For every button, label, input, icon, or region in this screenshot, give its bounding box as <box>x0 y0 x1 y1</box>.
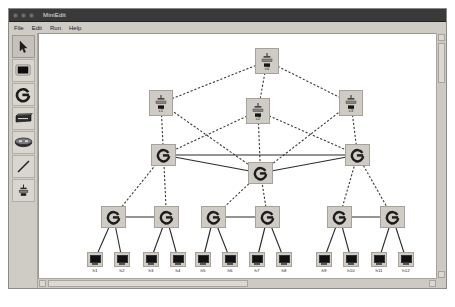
host-stand-icon <box>376 263 382 265</box>
menu-edit[interactable]: Edit <box>32 25 42 31</box>
host-tool[interactable] <box>12 59 35 82</box>
scroll-up-button[interactable] <box>438 34 445 41</box>
node-h12[interactable]: h12 <box>398 252 414 273</box>
node-label: c2 <box>256 116 261 121</box>
link-s1-s4[interactable] <box>164 155 261 173</box>
node-s1[interactable]: s1 <box>151 144 176 166</box>
vertical-scroll-thumb[interactable] <box>438 43 445 83</box>
node-h6[interactable]: h6 <box>222 252 238 273</box>
host-screen-icon <box>374 255 385 263</box>
link-tool[interactable] <box>12 155 35 178</box>
legacy-switch-tool[interactable] <box>12 131 35 154</box>
host-screen-icon <box>198 255 209 263</box>
node-s2[interactable]: s2 <box>101 206 126 228</box>
scroll-right-button[interactable] <box>429 280 436 287</box>
node-c0[interactable]: c0 <box>255 48 279 74</box>
node-h3[interactable]: h3 <box>143 252 159 273</box>
host-screen-icon <box>146 255 157 263</box>
scrollbar-corner <box>437 279 446 288</box>
node-label: h5 <box>201 268 206 273</box>
horizontal-scroll-thumb[interactable] <box>48 280 248 287</box>
node-h11[interactable]: h11 <box>371 252 387 273</box>
host-body <box>276 252 292 267</box>
node-s8[interactable]: s8 <box>327 206 352 228</box>
node-body: s9 <box>380 206 405 228</box>
node-h7[interactable]: h7 <box>249 252 265 273</box>
link-s4-s7[interactable] <box>261 155 358 173</box>
node-label: s3 <box>164 221 169 226</box>
switch-tool[interactable] <box>12 83 35 106</box>
host-screen-icon <box>90 255 101 263</box>
node-s7[interactable]: s7 <box>345 144 370 166</box>
node-label: h12 <box>402 268 409 273</box>
controller-tool[interactable] <box>12 179 35 202</box>
host-body <box>195 252 211 267</box>
host-body <box>143 252 159 267</box>
host-screen-icon <box>252 255 263 263</box>
node-label: s2 <box>111 221 116 226</box>
zoom-dot-icon[interactable] <box>29 13 34 18</box>
node-c2[interactable]: c2 <box>246 98 270 124</box>
topology-canvas[interactable]: c0c1c2c3s1s4s7s2s3s5s6s8s9h1h2h3h4h5h6h7… <box>38 33 437 279</box>
menu-file[interactable]: File <box>14 25 24 31</box>
node-body: s1 <box>151 144 176 166</box>
link-c2-s7[interactable] <box>258 111 358 155</box>
host-icon <box>15 64 31 77</box>
close-dot-icon[interactable] <box>13 13 18 18</box>
vertical-scrollbar[interactable] <box>436 33 446 279</box>
host-stand-icon <box>403 263 409 265</box>
host-screen-icon <box>401 255 412 263</box>
node-s9[interactable]: s9 <box>380 206 405 228</box>
window-controls <box>13 13 34 18</box>
host-screen-icon <box>279 255 290 263</box>
minimize-dot-icon[interactable] <box>21 13 26 18</box>
node-body: s5 <box>201 206 226 228</box>
window-body: c0c1c2c3s1s4s7s2s3s5s6s8s9h1h2h3h4h5h6h7… <box>9 33 446 288</box>
node-h9[interactable]: h9 <box>316 252 332 273</box>
node-s4[interactable]: s4 <box>248 162 273 184</box>
node-h10[interactable]: h10 <box>343 252 359 273</box>
host-stand-icon <box>148 263 154 265</box>
link-c2-s1[interactable] <box>164 111 259 155</box>
node-s3[interactable]: s3 <box>154 206 179 228</box>
node-c1[interactable]: c1 <box>149 90 173 116</box>
host-stand-icon <box>254 263 260 265</box>
legacy-router-tool[interactable] <box>12 107 35 130</box>
node-h4[interactable]: h4 <box>170 252 186 273</box>
horizontal-scrollbar[interactable] <box>38 278 437 288</box>
host-screen-icon <box>117 255 128 263</box>
host-stand-icon <box>175 263 181 265</box>
node-h8[interactable]: h8 <box>276 252 292 273</box>
link-c3-s4[interactable] <box>261 103 352 173</box>
miniedit-window: MiniEdit File Edit Run Help <box>8 8 447 289</box>
host-body <box>316 252 332 267</box>
node-h1[interactable]: h1 <box>87 252 103 273</box>
node-s6[interactable]: s6 <box>255 206 280 228</box>
node-label: h10 <box>347 268 354 273</box>
menu-help[interactable]: Help <box>69 25 81 31</box>
node-label: s6 <box>265 221 270 226</box>
host-body <box>398 252 414 267</box>
node-h5[interactable]: h5 <box>195 252 211 273</box>
window-titlebar: MiniEdit <box>9 9 446 22</box>
host-body <box>170 252 186 267</box>
node-body: s6 <box>255 206 280 228</box>
scroll-left-button[interactable] <box>39 280 46 287</box>
select-tool[interactable] <box>12 35 35 58</box>
link-c0-c1[interactable] <box>161 61 267 103</box>
node-label: h1 <box>93 268 98 273</box>
node-s5[interactable]: s5 <box>201 206 226 228</box>
node-label: h6 <box>228 268 233 273</box>
tool-palette <box>9 33 38 288</box>
host-screen-icon <box>319 255 330 263</box>
menu-run[interactable]: Run <box>50 25 61 31</box>
scroll-down-button[interactable] <box>438 271 445 278</box>
controller-icon <box>16 183 31 198</box>
node-c3[interactable]: c3 <box>339 90 363 116</box>
node-label: h4 <box>176 268 181 273</box>
host-stand-icon <box>281 263 287 265</box>
node-label: s5 <box>211 221 216 226</box>
node-h2[interactable]: h2 <box>114 252 130 273</box>
host-body <box>343 252 359 267</box>
host-body <box>249 252 265 267</box>
